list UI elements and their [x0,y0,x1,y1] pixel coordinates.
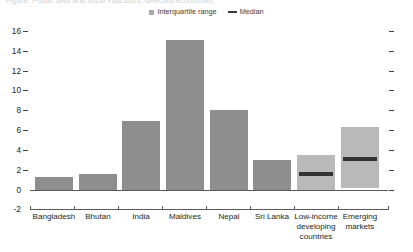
y-tick-label-10: 10 [3,86,21,94]
bar-bhutan [79,174,117,190]
y-tick-mark-14 [23,51,28,52]
y-tick-mark-right-14 [389,51,394,52]
y-tick-mark-right-4 [389,150,394,151]
median-line-emerging-markets [343,157,377,161]
x-axis-divider-3 [162,206,163,210]
x-tick-label-emerging-markets: Emerging markets [334,212,386,232]
y-tick-mark-right-6 [389,130,394,131]
y-tick-mark-6 [23,130,28,131]
plot-area: 16 14 12 10 8 6 4 2 0 -2 [0,0,413,252]
x-axis-cap-right [388,206,389,210]
x-axis-divider-4 [206,206,207,210]
x-tick-label-emerging-markets-line-1: Emerging [334,212,386,222]
y-tick-label-12: 12 [3,67,21,75]
y-tick-mark-right-2 [389,170,394,171]
chart-figure: Figure: Public debt and fiscal indicator… [0,0,413,252]
y-tick-label-8: 8 [3,106,21,114]
x-axis-divider-5 [250,206,251,210]
x-axis-divider-1 [74,206,75,210]
bar-nepal [210,110,248,190]
y-tick-label-2: 2 [3,166,21,174]
y-tick-mark-right-12 [389,71,394,72]
y-tick-label-minus-2: -2 [3,205,21,213]
bar-india [122,121,160,190]
x-axis-divider-6 [294,206,295,210]
x-axis-divider-7 [338,206,339,210]
median-line-low-income-developing-countries [299,172,333,176]
y-tick-label-6: 6 [3,126,21,134]
y-tick-mark-2 [23,170,28,171]
y-tick-mark-right-10 [389,90,394,91]
y-tick-mark-10 [23,90,28,91]
bar-bangladesh [35,177,73,190]
x-tick-label-lidc-line-3: countries [290,232,342,242]
y-tick-mark-16 [23,31,28,32]
y-tick-mark-right-0 [389,190,394,191]
y-tick-label-14: 14 [3,47,21,55]
y-tick-mark-8 [23,110,28,111]
y-tick-mark-12 [23,71,28,72]
x-axis-cap-left [30,206,31,210]
zero-baseline [30,190,388,191]
y-tick-mark-right-8 [389,110,394,111]
y-tick-mark-right-16 [389,31,394,32]
y-tick-label-0: 0 [3,186,21,194]
bar-maldives [166,40,204,190]
y-tick-label-16: 16 [3,27,21,35]
x-axis-line [30,209,388,210]
y-tick-mark-4 [23,150,28,151]
x-tick-label-emerging-markets-line-2: markets [334,222,386,232]
bar-sri-lanka [253,160,291,190]
x-axis-divider-2 [118,206,119,210]
y-tick-label-4: 4 [3,146,21,154]
